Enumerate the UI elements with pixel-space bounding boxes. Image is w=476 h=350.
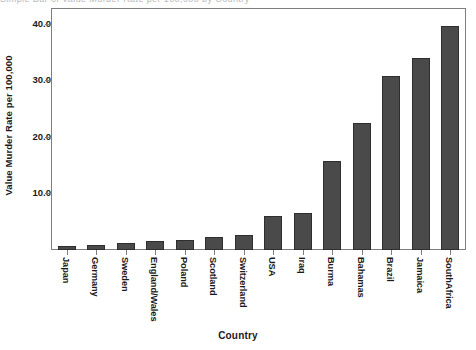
bar-slot: [264, 9, 282, 250]
bar-chart: Simple Bar of Value Murder Rate per 100,…: [0, 0, 476, 350]
x-axis-tick-mark: [391, 250, 392, 255]
bar-slot: [441, 9, 459, 250]
bar: [323, 161, 341, 250]
bar-slot: [294, 9, 312, 250]
bar: [235, 235, 253, 250]
x-axis-tick-mark: [273, 250, 274, 255]
x-axis-tick-mark: [421, 250, 422, 255]
bar-series: [52, 9, 465, 250]
x-axis-tick-mark: [126, 250, 127, 255]
bar: [353, 123, 371, 250]
x-axis-tick-mark: [303, 250, 304, 255]
y-axis-title: Value Murder Rate per 100,000: [0, 0, 16, 250]
bar-slot: [235, 9, 253, 250]
bar-slot: [58, 9, 76, 250]
x-axis-tick-mark: [450, 250, 451, 255]
x-axis-tick-mark: [67, 250, 68, 255]
bar-slot: [205, 9, 223, 250]
bar: [294, 213, 312, 250]
bar: [205, 237, 223, 250]
bar: [117, 243, 135, 250]
x-axis-tick-mark: [362, 250, 363, 255]
bar: [441, 26, 459, 250]
bar-slot: [176, 9, 194, 250]
bar-slot: [382, 9, 400, 250]
x-axis-tick-mark: [332, 250, 333, 255]
bar: [382, 76, 400, 250]
x-axis-tick-mark: [244, 250, 245, 255]
y-axis-tick-mark: [45, 80, 51, 81]
y-axis-tick-mark: [45, 24, 51, 25]
y-axis-tick-mark: [45, 137, 51, 138]
x-axis-tick-mark: [96, 250, 97, 255]
bar-slot: [323, 9, 341, 250]
bar-slot: [87, 9, 105, 250]
bar-slot: [412, 9, 430, 250]
bar: [412, 58, 430, 250]
bar-slot: [117, 9, 135, 250]
x-axis-title: Country: [0, 330, 476, 341]
x-axis-tick-mark: [185, 250, 186, 255]
bar: [176, 240, 194, 250]
y-axis-tick-mark: [45, 193, 51, 194]
clipped-chart-title: Simple Bar of Value Murder Rate per 100,…: [0, 0, 476, 4]
x-axis-tick-mark: [155, 250, 156, 255]
bar: [146, 241, 164, 250]
x-axis-tick-mark: [214, 250, 215, 255]
bar-slot: [353, 9, 371, 250]
bar: [264, 216, 282, 250]
y-axis-title-text: Value Murder Rate per 100,000: [3, 55, 14, 195]
bar-slot: [146, 9, 164, 250]
